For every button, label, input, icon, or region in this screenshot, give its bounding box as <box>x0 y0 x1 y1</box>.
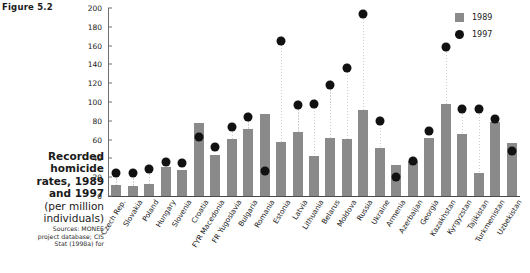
dot-1997 <box>408 157 417 166</box>
bar-1989 <box>342 139 352 196</box>
bar-1989 <box>128 186 138 196</box>
y-axis-tick-mark <box>108 102 112 103</box>
y-axis-tick-mark <box>108 64 112 65</box>
dot-1997 <box>161 157 170 166</box>
y-axis-tick-mark <box>108 158 112 159</box>
figure-number: Figure 5.2 <box>2 2 53 12</box>
bar-1989 <box>293 132 303 196</box>
dot-1997 <box>441 43 450 52</box>
y-axis-tick-label: 140 <box>88 60 108 69</box>
bar-1989 <box>144 184 154 196</box>
bar-1989 <box>260 114 270 196</box>
x-axis-labels: Czech Rep.SlovakiaPolandHungarySloveniaC… <box>108 198 520 273</box>
caption-subtitle: (per million individuals) <box>0 200 104 225</box>
bar-1989 <box>474 173 484 196</box>
dot-1997 <box>112 169 121 178</box>
y-axis-tick-mark <box>108 45 112 46</box>
bar-1989 <box>210 155 220 196</box>
caption-sources-line-3: Stat (1998a) for <box>0 240 104 247</box>
dot-1997 <box>342 63 351 72</box>
y-axis-tick-label: 40 <box>92 154 108 163</box>
bar-1989 <box>111 185 121 196</box>
y-axis-tick-label: 200 <box>88 4 108 13</box>
caption-title-line-4: and 1997 <box>0 187 104 199</box>
bar-1989 <box>408 161 418 196</box>
y-axis-tick-label: 20 <box>92 173 108 182</box>
dot-1997 <box>194 132 203 141</box>
y-axis-tick-mark <box>108 83 112 84</box>
y-axis-tick-label: 100 <box>88 98 108 107</box>
dot-1997 <box>392 173 401 182</box>
figure-caption: Recorded homicide rates, 1989 and 1997 (… <box>0 150 104 248</box>
dot-1997 <box>474 105 483 114</box>
dot-1997 <box>375 116 384 125</box>
y-axis-tick-mark <box>108 120 112 121</box>
legend-square-icon <box>455 13 464 22</box>
y-axis-tick-mark <box>108 26 112 27</box>
y-axis-tick-label: 180 <box>88 22 108 31</box>
dot-connector-line <box>446 43 447 104</box>
caption-sources-line-1: Sources: MONEE <box>0 225 104 232</box>
dot-1997 <box>507 146 516 155</box>
dot-1997 <box>260 167 269 176</box>
dot-1997 <box>227 123 236 132</box>
y-axis-tick-mark <box>108 8 112 9</box>
bar-1989 <box>457 134 467 196</box>
y-axis-tick-label: 60 <box>92 135 108 144</box>
bar-1989 <box>177 170 187 196</box>
caption-title-line-3: rates, 1989 <box>0 175 104 187</box>
bar-1989 <box>227 139 237 196</box>
dot-1997 <box>310 99 319 108</box>
dot-connector-line <box>479 105 480 174</box>
dot-1997 <box>178 158 187 167</box>
dot-1997 <box>244 112 253 121</box>
y-axis-tick-label: 80 <box>92 116 108 125</box>
dot-connector-line <box>281 36 282 142</box>
dot-1997 <box>425 126 434 135</box>
dot-1997 <box>293 100 302 109</box>
y-axis-tick-label: 160 <box>88 41 108 50</box>
bar-1989 <box>441 104 451 196</box>
bar-1989 <box>309 156 319 196</box>
dot-1997 <box>326 80 335 89</box>
legend-entry-1989: 1989 <box>455 10 492 24</box>
y-axis-tick-label: 120 <box>88 79 108 88</box>
bar-1989 <box>276 142 286 196</box>
chart-legend: 1989 1997 <box>455 10 492 44</box>
bar-1989 <box>375 148 385 196</box>
y-axis-tick-label: 0 <box>97 192 108 201</box>
bar-1989 <box>424 138 434 196</box>
caption-sources: Sources: MONEE project database; CIS Sta… <box>0 225 104 247</box>
legend-label-1989: 1989 <box>472 13 492 22</box>
dot-1997 <box>277 36 286 45</box>
y-axis-tick-mark <box>108 139 112 140</box>
dot-1997 <box>458 105 467 114</box>
legend-circle-icon <box>455 30 464 39</box>
y-axis-tick-mark <box>108 177 112 178</box>
caption-title-line-2: homicide <box>0 162 104 174</box>
caption-subtitle-line-2: individuals) <box>0 212 104 224</box>
legend-entry-1997: 1997 <box>455 27 492 41</box>
caption-sources-line-2: project database; CIS <box>0 233 104 240</box>
dot-1997 <box>359 10 368 19</box>
bar-1989 <box>243 129 253 196</box>
dot-1997 <box>211 142 220 151</box>
dot-1997 <box>128 169 137 178</box>
caption-subtitle-line-1: (per million <box>0 200 104 212</box>
bar-1989 <box>490 122 500 196</box>
dot-connector-line <box>363 10 364 111</box>
caption-title-line-1: Recorded <box>0 150 104 162</box>
bar-1989 <box>325 138 335 196</box>
legend-label-1997: 1997 <box>472 30 492 39</box>
dot-connector-line <box>347 63 348 138</box>
dot-1997 <box>491 114 500 123</box>
dot-1997 <box>145 165 154 174</box>
caption-title: Recorded homicide rates, 1989 and 1997 <box>0 150 104 200</box>
bar-1989 <box>161 167 171 196</box>
bar-1989 <box>358 110 368 196</box>
